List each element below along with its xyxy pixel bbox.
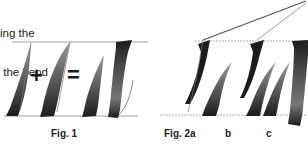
fig2c-letter — [263, 40, 308, 126]
fig2-guides — [160, 1, 306, 115]
fig2a-label: Fig. 2a — [164, 128, 196, 139]
calligraphy-illustration: + = — [0, 0, 308, 145]
fig2c-label: c — [266, 128, 272, 139]
fig2b-label: b — [225, 128, 231, 139]
fig1-label: Fig. 1 — [51, 128, 77, 139]
fig2a-letter — [185, 40, 232, 116]
fig1-combined-letter — [82, 40, 133, 118]
plus-operator: + — [30, 63, 43, 88]
fig1-stroke-wide — [40, 42, 70, 117]
fig1-stroke-thin — [6, 43, 31, 116]
equals-operator: = — [67, 62, 80, 87]
